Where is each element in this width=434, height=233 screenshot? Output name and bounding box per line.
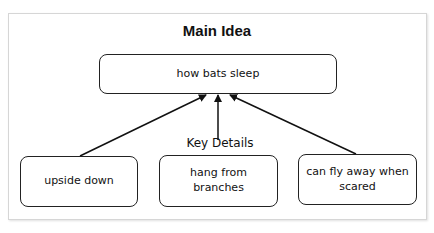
detail-text: upside down	[44, 174, 114, 189]
detail-box-3: can fly away when scared	[298, 154, 417, 205]
detail-box-2: hang from branches	[159, 155, 278, 207]
main-idea-box: how bats sleep	[99, 54, 337, 94]
detail-text: hang from branches	[166, 166, 271, 196]
main-idea-text: how bats sleep	[177, 67, 260, 82]
key-details-label: Key Details	[160, 136, 280, 150]
detail-box-1: upside down	[20, 156, 138, 207]
detail-text: can fly away when scared	[305, 165, 410, 195]
